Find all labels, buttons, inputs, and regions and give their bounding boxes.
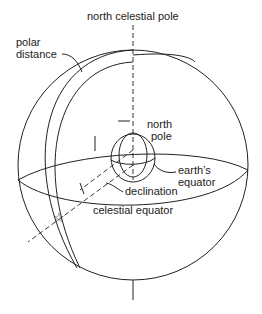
label-north: north [147, 118, 172, 130]
declination-leader [106, 183, 123, 192]
star-icon: ☆ [53, 210, 65, 225]
label-equator: equator [178, 176, 216, 188]
label-pole: pole [151, 130, 172, 142]
label-polar: polar [16, 36, 41, 48]
label-celestial-equator: celestial equator [93, 204, 173, 216]
label-declination: declination [125, 185, 178, 197]
celestial-sphere-diagram: ☆ north celestial pole polar distance no… [0, 0, 262, 314]
meridian-top-arc [133, 54, 195, 62]
label-earths: earth’s [178, 164, 211, 176]
label-north-celestial-pole: north celestial pole [87, 10, 179, 22]
earths-equator-leader [154, 164, 176, 173]
label-distance: distance [16, 48, 57, 60]
declination-arrow [80, 183, 84, 194]
hour-circle-inner [55, 62, 133, 268]
